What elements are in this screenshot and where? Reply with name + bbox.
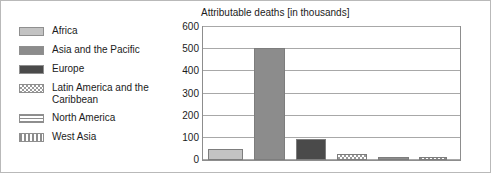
legend-item-label: Latin America and the Caribbean [52, 82, 149, 106]
legend-swatch-icon [19, 46, 44, 55]
bar[interactable] [208, 149, 243, 160]
legend-item-label: West Asia [52, 131, 96, 143]
y-axis-tick-label: 600 [182, 21, 199, 32]
legend-item-label: Europe [52, 63, 84, 75]
chart-legend: AfricaAsia and the PacificEuropeLatin Am… [19, 25, 171, 150]
bar[interactable] [254, 48, 285, 160]
y-axis-tick-label: 500 [182, 43, 199, 54]
bar[interactable] [378, 157, 409, 160]
chart-figure: AfricaAsia and the PacificEuropeLatin Am… [0, 0, 491, 173]
legend-swatch-icon [19, 84, 44, 93]
legend-item[interactable]: Latin America and the Caribbean [19, 82, 171, 106]
legend-item-label: Africa [52, 25, 78, 37]
legend-item[interactable]: Asia and the Pacific [19, 44, 171, 57]
chart-title: Attributable deaths [in thousands] [201, 7, 349, 18]
bar[interactable] [296, 139, 327, 160]
legend-swatch-icon [19, 133, 44, 142]
legend-item[interactable]: Europe [19, 63, 171, 76]
bar-chart: Attributable deaths [in thousands] 60050… [177, 7, 477, 169]
y-axis-tick-label: 400 [182, 65, 199, 76]
plot-area: 6005004003002001000 [202, 26, 461, 161]
legend-swatch-icon [19, 114, 44, 123]
legend-item-label: North America [52, 112, 115, 124]
y-axis-tick-label: 100 [182, 131, 199, 142]
y-axis-tick-label: 200 [182, 109, 199, 120]
legend-item[interactable]: West Asia [19, 131, 171, 144]
legend-item-label: Asia and the Pacific [52, 44, 140, 56]
legend-item[interactable]: North America [19, 112, 171, 125]
bar-series [203, 27, 460, 160]
bar[interactable] [419, 157, 447, 160]
legend-swatch-icon [19, 65, 44, 74]
legend-item[interactable]: Africa [19, 25, 171, 38]
legend-swatch-icon [19, 27, 44, 36]
bar[interactable] [337, 154, 368, 160]
y-axis-tick-label: 300 [182, 87, 199, 98]
y-axis-tick-label: 0 [193, 154, 199, 165]
